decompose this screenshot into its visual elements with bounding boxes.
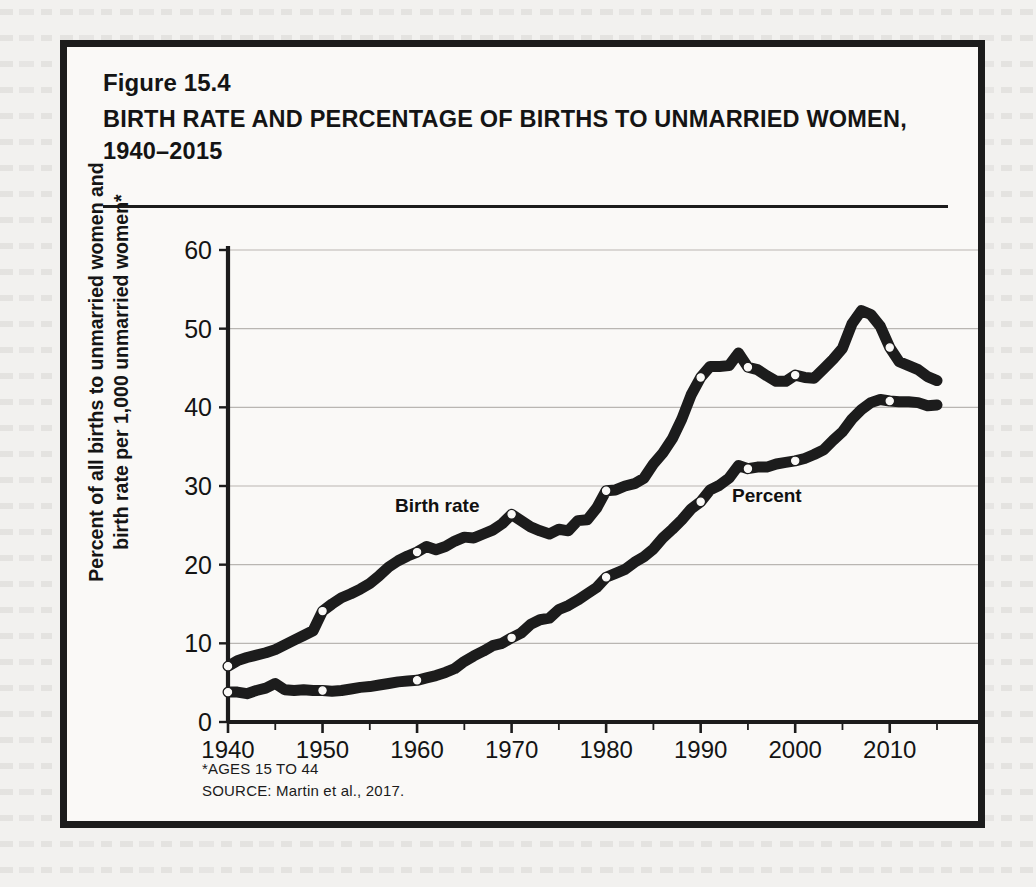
data-point-marker — [319, 687, 326, 694]
x-tick-labels-group: 19401950196019701980199020002010 — [201, 736, 916, 763]
series-line-birth-rate — [228, 311, 937, 667]
series-label-percent: Percent — [732, 485, 802, 507]
y-tick-label: 50 — [184, 315, 212, 343]
line-chart-svg: 0102030405060 19401950196019701980199020… — [67, 47, 978, 821]
data-point-marker — [886, 397, 893, 404]
data-series-group — [228, 311, 937, 694]
y-tick-label: 10 — [184, 629, 212, 657]
data-point-marker — [224, 689, 231, 696]
data-point-marker — [697, 498, 704, 505]
data-point-marker — [697, 374, 704, 381]
data-point-marker — [413, 677, 420, 684]
data-point-marker — [603, 574, 610, 581]
series-line-percent — [228, 399, 937, 693]
y-tick-labels-group: 0102030405060 — [184, 236, 212, 736]
x-tick-label: 2010 — [863, 736, 916, 763]
data-point-marker — [603, 487, 610, 494]
data-point-marker — [744, 465, 751, 472]
data-point-marker — [319, 607, 326, 614]
figure-box: Figure 15.4 BIRTH RATE AND PERCENTAGE OF… — [60, 40, 985, 828]
data-point-marker — [744, 364, 751, 371]
x-tick-label: 1990 — [674, 736, 727, 763]
figure-inner: Figure 15.4 BIRTH RATE AND PERCENTAGE OF… — [67, 47, 978, 821]
data-point-marker — [508, 511, 515, 518]
data-point-marker — [886, 344, 893, 351]
y-tick-label: 40 — [184, 393, 212, 421]
y-tick-label: 0 — [198, 708, 212, 736]
data-point-marker — [508, 634, 515, 641]
data-point-marker — [224, 663, 231, 670]
axis-ticks-group — [219, 250, 937, 733]
x-tick-label: 2000 — [769, 736, 822, 763]
data-point-marker — [792, 457, 799, 464]
y-tick-label: 30 — [184, 472, 212, 500]
series-label-birth-rate: Birth rate — [395, 495, 479, 517]
y-tick-label: 60 — [184, 236, 212, 264]
chart-plot-area: 0102030405060 19401950196019701980199020… — [67, 47, 978, 821]
x-tick-label: 1940 — [201, 736, 254, 763]
data-point-marker — [413, 548, 420, 555]
footnote-ages: *AGES 15 TO 44 — [202, 760, 318, 777]
y-axis-title: Percent of all births to unmarried women… — [84, 142, 134, 602]
y-tick-label: 20 — [184, 551, 212, 579]
x-tick-label: 1980 — [579, 736, 632, 763]
x-tick-label: 1960 — [390, 736, 443, 763]
x-tick-label: 1950 — [296, 736, 349, 763]
x-tick-label: 1970 — [485, 736, 538, 763]
footnote-source: SOURCE: Martin et al., 2017. — [202, 782, 404, 799]
data-point-marker — [792, 371, 799, 378]
